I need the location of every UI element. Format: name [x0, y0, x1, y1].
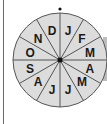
segment-label-aug: A: [34, 75, 43, 89]
segment-label-nov: N: [34, 32, 43, 46]
segment-label-mar: M: [85, 46, 95, 60]
month-wheel: J F M A M J J A S O N D: [0, 0, 107, 124]
segment-label-dec: D: [48, 24, 57, 38]
segment-label-jan: J: [65, 24, 72, 38]
segment-label-oct: O: [25, 46, 34, 60]
segment-label-may: M: [77, 75, 87, 89]
hub-dot: [58, 58, 63, 63]
segment-label-feb: F: [78, 32, 85, 46]
segment-label-jul: J: [49, 83, 56, 97]
month-wheel-figure: J F M A M J J A S O N D: [0, 0, 107, 124]
pointer-dot: [58, 7, 61, 10]
segment-label-jun: J: [65, 83, 72, 97]
segment-label-sep: S: [26, 62, 34, 76]
segment-label-apr: A: [86, 62, 95, 76]
